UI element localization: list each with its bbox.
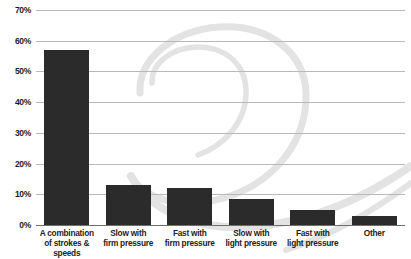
bar (44, 50, 89, 225)
x-tick-label: Slow withfirm pressure (94, 228, 164, 248)
x-tick-label: Slow withlight pressure (217, 228, 287, 248)
y-axis: 0%10%20%30%40%50%60%70% (0, 0, 36, 257)
x-axis-category-labels: A combinationof strokes &speedsSlow with… (36, 226, 405, 257)
x-tick-label-line: Fast with (278, 228, 348, 238)
bar (106, 185, 151, 225)
x-tick-label-line: light pressure (217, 238, 287, 248)
y-tick-label: 10% (15, 189, 31, 199)
x-tick-label-line: of strokes & (32, 238, 102, 248)
y-tick-label: 70% (15, 5, 31, 15)
x-tick-label: Other (340, 228, 410, 238)
x-tick-label-line: Other (340, 228, 410, 238)
y-tick-label: 0% (19, 220, 31, 230)
x-tick-label-line: light pressure (278, 238, 348, 248)
bars-group (36, 0, 405, 257)
bar (290, 210, 335, 225)
x-tick-label: Fast withfirm pressure (155, 228, 225, 248)
y-tick-label: 40% (15, 97, 31, 107)
x-tick-label-line: Fast with (155, 228, 225, 238)
y-tick-label: 50% (15, 66, 31, 76)
bar (352, 216, 397, 225)
bar (167, 188, 212, 225)
bar (229, 199, 274, 225)
x-tick-label-line: Slow with (217, 228, 287, 238)
y-tick-label: 30% (15, 128, 31, 138)
x-tick-label: Fast withlight pressure (278, 228, 348, 248)
x-tick-label-line: Slow with (94, 228, 164, 238)
x-tick-label-line: A combination (32, 228, 102, 238)
x-tick-label: A combinationof strokes &speeds (32, 228, 102, 259)
y-tick-label: 60% (15, 36, 31, 46)
x-tick-label-line: firm pressure (94, 238, 164, 248)
y-tick-label: 20% (15, 159, 31, 169)
x-tick-label-line: speeds (32, 248, 102, 258)
x-tick-label-line: firm pressure (155, 238, 225, 248)
